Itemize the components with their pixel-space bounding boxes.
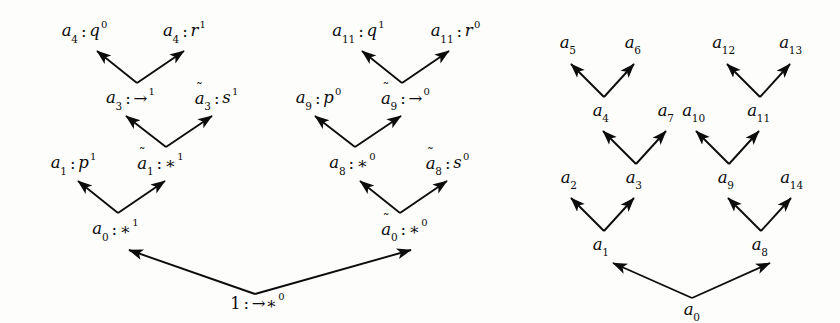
node-r-a2: a2 — [561, 170, 578, 189]
edge-a9tilde-to-a11r — [402, 51, 449, 83]
edge-a9tilde-to-a11q — [362, 51, 402, 83]
node-r-a6: a6 — [625, 35, 642, 54]
node-r-a1: a1 — [593, 237, 610, 256]
node-a3-tilde: ˜a3:s1 — [195, 89, 238, 109]
edge-r-a0-to-a1 — [613, 263, 692, 298]
node-a8-tilde: ˜a8:s0 — [426, 154, 469, 174]
edge-r-a11-to-a13 — [760, 64, 790, 97]
node-r-a13: a13 — [779, 35, 802, 54]
edge-r-a1-to-a2 — [571, 198, 604, 231]
node-a4-q: a4:q0 — [62, 22, 107, 42]
node-r-a0: a0 — [684, 302, 701, 321]
node-r-a14: a14 — [780, 170, 803, 189]
edge-r-a4-to-a6 — [604, 64, 634, 97]
node-r-a8: a8 — [752, 237, 769, 256]
edge-a3-to-a4r — [137, 51, 184, 83]
node-a0-tilde: ˜a0:∗0 — [381, 220, 426, 240]
node-r-a4: a4 — [593, 103, 610, 122]
edge-r-a1-to-a3 — [604, 198, 634, 231]
node-r-a10: a10 — [682, 103, 705, 122]
node-r-a7: a7 — [658, 103, 675, 122]
node-a9: a9:p0 — [296, 89, 341, 109]
node-a11-q: a11:q1 — [332, 22, 383, 42]
edge-a8-to-a9 — [315, 116, 355, 147]
node-r-a9: a9 — [718, 170, 735, 189]
node-a1-tilde: ˜a1:∗1 — [137, 154, 182, 174]
edge-group — [78, 51, 791, 298]
edge-a3-to-a4q — [97, 51, 137, 83]
edge-r-a3-to-a4 — [603, 131, 636, 164]
node-r-a5: a5 — [560, 35, 577, 54]
edge-a0-to-a1tilde — [118, 181, 165, 213]
edge-r-a11-to-a12 — [727, 64, 760, 97]
edge-r-a8-to-a14 — [761, 198, 791, 231]
edge-r-a9-to-a10 — [696, 131, 729, 164]
edge-r-a4-to-a5 — [571, 64, 604, 97]
edge-a0tilde-to-a8tilde — [400, 181, 447, 213]
edge-r-a9-to-a11 — [729, 131, 759, 164]
node-r-a11: a11 — [747, 103, 770, 122]
edge-a1tilde-to-a3tilde — [166, 116, 212, 147]
edge-r-a3-to-a7 — [636, 131, 666, 164]
node-r-a12: a12 — [712, 35, 735, 54]
edge-r-a8-to-a9 — [728, 198, 761, 231]
edge-a0tilde-to-a8 — [360, 181, 400, 213]
edge-a0-to-a1 — [78, 181, 118, 213]
figure-canvas: a4:q0 a4:r1 a3:→1 ˜a3:s1 a1:p1 ˜a1:∗1 a0… — [0, 0, 840, 323]
node-a0: a0:∗1 — [92, 220, 137, 240]
edge-root-to-a0 — [129, 250, 255, 294]
node-a3: a3:→1 — [106, 89, 154, 109]
node-a9-tilde: ˜a9:→0 — [381, 89, 429, 109]
edge-r-a0-to-a8 — [692, 263, 770, 298]
edge-a8-to-a9tilde — [355, 116, 401, 147]
edge-a1tilde-to-a3 — [126, 116, 166, 147]
node-a11-r: a11:r0 — [431, 22, 480, 42]
node-a8: a8:∗0 — [329, 154, 374, 174]
node-r-a3: a3 — [626, 170, 643, 189]
node-a1: a1:p1 — [51, 154, 96, 174]
edge-root-to-a0tilde — [255, 250, 411, 294]
node-root-judgement: 1:→∗0 — [230, 294, 283, 312]
node-a4-r: a4:r1 — [163, 22, 205, 42]
